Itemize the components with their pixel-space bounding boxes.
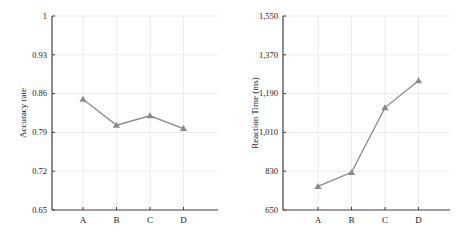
data-point-marker [79, 96, 86, 102]
data-point-marker [415, 77, 422, 83]
y-tick-label: 1,010 [259, 127, 278, 137]
reaction-time-plot: Reaction Time (ms) 6508301,0101,1901,370… [232, 0, 463, 236]
x-tick-label: C [147, 215, 153, 225]
y-tick-label: 1,370 [259, 50, 278, 60]
y-tick-label: 0.65 [32, 205, 47, 215]
accuracy-chart: Accuracy rate 0.650.720.790.860.931ABCD [0, 0, 232, 236]
data-line [83, 99, 184, 128]
data-line [318, 81, 419, 187]
y-tick-label: 650 [265, 205, 278, 215]
x-tick-label: D [180, 215, 187, 225]
x-tick-label: D [415, 215, 422, 225]
y-tick-label: 1,190 [259, 88, 278, 98]
x-tick-label: B [113, 215, 119, 225]
x-tick-label: C [382, 215, 388, 225]
y-tick-label: 0.79 [32, 127, 47, 137]
data-point-marker [348, 169, 355, 175]
y-tick-label: 0.93 [32, 50, 47, 60]
y-tick-label: 0.86 [32, 88, 47, 98]
y-tick-label: 830 [265, 166, 278, 176]
x-tick-label: A [315, 215, 322, 225]
reaction-time-chart: Reaction Time (ms) 6508301,0101,1901,370… [232, 0, 463, 236]
y-tick-label: 0.72 [32, 166, 47, 176]
x-tick-label: B [348, 215, 354, 225]
dual-line-chart-figure: Accuracy rate 0.650.720.790.860.931ABCD … [0, 0, 463, 236]
data-point-marker [146, 112, 153, 118]
y-tick-label: 1 [43, 11, 47, 21]
x-tick-label: A [80, 215, 87, 225]
y-axis-title-accuracy: Accuracy rate [18, 88, 28, 138]
accuracy-plot: Accuracy rate 0.650.720.790.860.931ABCD [0, 0, 232, 236]
y-tick-label: 1,550 [259, 11, 278, 21]
